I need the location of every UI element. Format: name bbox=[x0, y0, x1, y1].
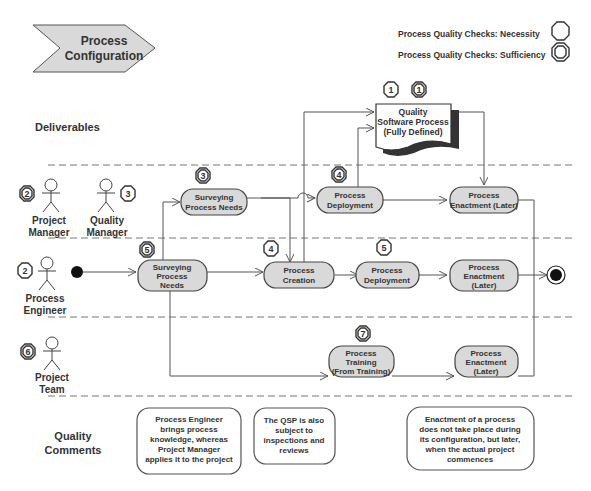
activity-pe-process-enactment[interactable]: Process Enactment (Later) bbox=[450, 260, 518, 291]
svg-text:brings process: brings process bbox=[160, 425, 218, 434]
svg-text:Quality: Quality bbox=[90, 215, 124, 226]
lane-label-quality-line2: Comments bbox=[45, 444, 102, 456]
svg-text:Process: Process bbox=[345, 349, 377, 358]
svg-text:The QSP is also: The QSP is also bbox=[264, 416, 324, 425]
svg-text:does not take place during: does not take place during bbox=[419, 425, 520, 434]
svg-text:Training: Training bbox=[345, 358, 376, 367]
actor-project-team[interactable]: 6 Project Team bbox=[21, 337, 70, 395]
svg-text:Process: Process bbox=[156, 272, 188, 281]
svg-text:Process: Process bbox=[468, 191, 500, 200]
svg-text:Manager: Manager bbox=[28, 227, 69, 238]
activity-pe-process-deployment[interactable]: Process Deployment 5 bbox=[356, 240, 419, 288]
activity-pm-surveying-process-needs[interactable]: Surveying Process Needs 3 bbox=[181, 168, 247, 215]
svg-text:1: 1 bbox=[416, 85, 421, 95]
svg-text:reviews: reviews bbox=[279, 446, 309, 455]
svg-text:6: 6 bbox=[25, 347, 30, 357]
svg-text:7: 7 bbox=[360, 329, 365, 339]
lane-label-quality-line1: Quality bbox=[54, 430, 92, 442]
activity-pe-surveying-process-needs[interactable]: Surveying Process Needs 5 bbox=[138, 242, 207, 291]
octagon-single-icon bbox=[552, 22, 569, 40]
legend: Process Quality Checks: Necessity Proces… bbox=[398, 22, 569, 61]
svg-text:2: 2 bbox=[24, 189, 29, 199]
svg-text:3: 3 bbox=[125, 189, 130, 199]
svg-text:commences: commences bbox=[447, 455, 494, 464]
svg-text:Deployment: Deployment bbox=[364, 276, 410, 285]
legend-necessity-label: Process Quality Checks: Necessity bbox=[398, 29, 540, 39]
process-configuration-diagram: Process Configuration Process Quality Ch… bbox=[0, 0, 591, 491]
svg-text:Needs: Needs bbox=[160, 281, 185, 290]
banner-chevron: Process Configuration bbox=[33, 25, 155, 72]
svg-text:Project: Project bbox=[32, 215, 67, 226]
banner-line2: Configuration bbox=[65, 49, 144, 63]
actor-quality-manager[interactable]: 3 Quality Manager bbox=[86, 179, 135, 238]
end-node bbox=[547, 266, 565, 284]
svg-text:Process Engineer: Process Engineer bbox=[155, 415, 223, 424]
svg-text:Process: Process bbox=[283, 266, 315, 275]
legend-sufficiency-label: Process Quality Checks: Sufficiency bbox=[398, 50, 546, 60]
svg-text:3: 3 bbox=[200, 171, 205, 181]
svg-text:its configuration, but later,: its configuration, but later, bbox=[420, 435, 520, 444]
svg-text:Software Process: Software Process bbox=[377, 117, 449, 127]
activity-pt-process-training[interactable]: Process Training (From Training) 7 bbox=[329, 326, 394, 377]
svg-text:Enactment: Enactment bbox=[464, 272, 505, 281]
svg-text:Surveying: Surveying bbox=[195, 193, 234, 202]
svg-text:(Fully Defined): (Fully Defined) bbox=[383, 127, 442, 137]
svg-text:Surveying: Surveying bbox=[153, 263, 192, 272]
svg-text:Process Needs: Process Needs bbox=[185, 203, 243, 212]
actor-project-manager[interactable]: 2 Project Manager bbox=[20, 179, 70, 238]
svg-text:Project Manager: Project Manager bbox=[158, 445, 220, 454]
start-node bbox=[71, 266, 83, 278]
svg-text:inspections and: inspections and bbox=[264, 436, 325, 445]
activity-pe-process-creation[interactable]: Process Creation 4 bbox=[264, 241, 334, 288]
svg-text:(From Training): (From Training) bbox=[332, 367, 391, 376]
svg-text:Enactment (Later): Enactment (Later) bbox=[450, 201, 518, 210]
comment-note-3: Enactment of a process does not take pla… bbox=[407, 407, 534, 470]
octagon-double-icon bbox=[552, 43, 569, 61]
svg-text:Deployment: Deployment bbox=[327, 201, 373, 210]
svg-text:Enactment of a process: Enactment of a process bbox=[425, 415, 516, 424]
svg-text:Enactment: Enactment bbox=[466, 358, 507, 367]
svg-text:4: 4 bbox=[336, 170, 341, 180]
svg-text:Process: Process bbox=[470, 349, 502, 358]
svg-text:(Later): (Later) bbox=[474, 367, 499, 376]
svg-text:Process: Process bbox=[468, 263, 500, 272]
svg-text:(Later): (Later) bbox=[472, 281, 497, 290]
svg-text:Process: Process bbox=[26, 293, 65, 304]
svg-text:Quality: Quality bbox=[399, 107, 428, 117]
svg-text:5: 5 bbox=[144, 245, 149, 255]
comment-note-1: Process Engineer brings process knowledg… bbox=[137, 408, 241, 474]
svg-text:5: 5 bbox=[381, 243, 386, 253]
svg-text:Manager: Manager bbox=[86, 227, 127, 238]
activity-pm-process-deployment[interactable]: Process Deployment 4 bbox=[317, 167, 383, 213]
svg-text:Engineer: Engineer bbox=[24, 305, 67, 316]
comment-note-2: The QSP is also subject to inspections a… bbox=[254, 408, 335, 464]
activity-pt-process-enactment[interactable]: Process Enactment (Later) bbox=[455, 346, 518, 377]
svg-text:1: 1 bbox=[388, 85, 393, 95]
activity-pm-process-enactment[interactable]: Process Enactment (Later) bbox=[450, 187, 518, 213]
svg-text:Process: Process bbox=[334, 191, 366, 200]
svg-text:subject to: subject to bbox=[275, 426, 313, 435]
svg-text:Project: Project bbox=[35, 372, 70, 383]
svg-text:4: 4 bbox=[268, 244, 273, 254]
svg-text:2: 2 bbox=[22, 266, 27, 276]
svg-text:Team: Team bbox=[39, 384, 64, 395]
svg-text:knowledge, whereas: knowledge, whereas bbox=[150, 435, 228, 444]
actor-process-engineer[interactable]: 2 Process Engineer bbox=[18, 257, 66, 316]
deliverable-quality-software-process[interactable]: Quality Software Process (Fully Defined)… bbox=[376, 82, 459, 156]
svg-text:Process: Process bbox=[371, 266, 403, 275]
lane-label-deliverables: Deliverables bbox=[35, 121, 100, 133]
svg-text:when the actual project: when the actual project bbox=[425, 445, 515, 454]
svg-text:Creation: Creation bbox=[283, 276, 316, 285]
banner-line1: Process bbox=[81, 34, 128, 48]
svg-text:applies it to the project: applies it to the project bbox=[145, 455, 233, 464]
